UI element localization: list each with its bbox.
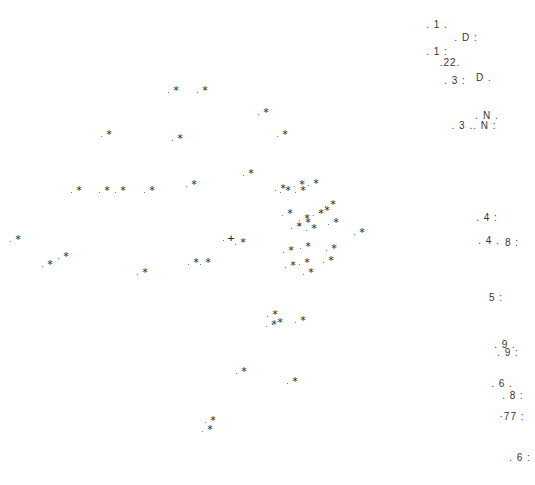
point-leader-dot — [223, 240, 224, 241]
point-leader-dot — [285, 267, 286, 268]
point-leader-dot — [58, 258, 59, 259]
point-leader-dot — [168, 92, 169, 93]
annotation-label: ·77 : — [499, 412, 524, 422]
point-leader-dot — [137, 274, 138, 275]
asterisk-marker-icon: * — [292, 376, 299, 387]
point-leader-dot — [326, 250, 327, 251]
point-leader-dot — [325, 206, 326, 207]
annotation-label: .22. — [440, 58, 461, 68]
asterisk-marker-icon: * — [300, 315, 307, 326]
point-leader-dot — [99, 192, 100, 193]
asterisk-marker-icon: * — [287, 208, 294, 219]
asterisk-marker-icon: * — [149, 185, 156, 196]
asterisk-marker-icon: * — [300, 185, 307, 196]
asterisk-marker-icon: * — [282, 129, 289, 140]
point-leader-dot — [236, 373, 237, 374]
point-leader-dot — [283, 252, 284, 253]
asterisk-marker-icon: * — [263, 107, 270, 118]
asterisk-marker-icon: * — [63, 251, 70, 262]
asterisk-marker-icon: * — [205, 257, 212, 268]
annotation-label: . 4 . — [478, 236, 500, 246]
point-leader-dot — [313, 215, 314, 216]
point-leader-dot — [172, 140, 173, 141]
point-leader-dot — [328, 224, 329, 225]
asterisk-marker-icon: * — [277, 317, 284, 328]
asterisk-marker-icon: * — [76, 185, 83, 196]
asterisk-marker-icon: * — [207, 424, 214, 435]
point-leader-dot — [354, 234, 355, 235]
asterisk-marker-icon: * — [290, 260, 297, 271]
point-leader-dot — [282, 215, 283, 216]
point-leader-dot — [235, 244, 236, 245]
annotation-label: . 4 : — [476, 213, 498, 223]
point-leader-dot — [294, 186, 295, 187]
asterisk-marker-icon: * — [47, 259, 54, 270]
point-leader-dot — [295, 322, 296, 323]
point-leader-dot — [197, 92, 198, 93]
point-leader-dot — [101, 136, 102, 137]
asterisk-marker-icon: * — [15, 234, 22, 245]
asterisk-marker-icon: * — [193, 257, 200, 268]
point-leader-dot — [299, 264, 300, 265]
point-leader-dot — [308, 185, 309, 186]
annotation-label: . 9 : — [497, 348, 519, 358]
annotation-label: 8 : — [505, 238, 519, 248]
point-leader-dot — [42, 266, 43, 267]
asterisk-marker-icon: * — [240, 237, 247, 248]
asterisk-marker-icon: * — [318, 208, 325, 219]
asterisk-marker-icon: * — [296, 221, 303, 232]
asterisk-marker-icon: * — [331, 243, 338, 254]
asterisk-marker-icon: * — [120, 185, 127, 196]
point-leader-dot — [202, 431, 203, 432]
asterisk-marker-icon: * — [288, 245, 295, 256]
asterisk-marker-icon: * — [328, 255, 335, 266]
point-leader-dot — [188, 264, 189, 265]
asterisk-marker-icon: * — [106, 129, 113, 140]
asterisk-marker-icon: * — [285, 185, 292, 196]
point-leader-dot — [200, 264, 201, 265]
asterisk-marker-icon: * — [202, 85, 209, 96]
point-leader-dot — [267, 316, 268, 317]
annotation-label: . 6 : — [509, 453, 531, 463]
asterisk-marker-icon: * — [271, 319, 278, 330]
annotation-label: . 1 : — [426, 47, 448, 57]
point-leader-dot — [277, 136, 278, 137]
asterisk-marker-icon: * — [241, 366, 248, 377]
annotation-label: . 3 : — [444, 76, 466, 86]
point-leader-dot — [258, 114, 259, 115]
asterisk-marker-icon: * — [173, 85, 180, 96]
asterisk-marker-icon: * — [191, 179, 198, 190]
annotation-label: . 6 . — [491, 379, 513, 389]
asterisk-marker-icon: * — [313, 178, 320, 189]
annotation-label: 5 : — [489, 293, 503, 303]
asterisk-marker-icon: * — [333, 217, 340, 228]
asterisk-marker-icon: * — [142, 267, 149, 278]
annotation-label: . 1 . — [426, 20, 448, 30]
scatter-plot-area: ****************************************… — [0, 0, 535, 485]
asterisk-marker-icon: * — [104, 185, 111, 196]
point-leader-dot — [295, 192, 296, 193]
point-leader-dot — [10, 241, 11, 242]
point-leader-dot — [243, 175, 244, 176]
asterisk-marker-icon: * — [359, 227, 366, 238]
point-leader-dot — [300, 248, 301, 249]
point-leader-dot — [71, 192, 72, 193]
point-leader-dot — [287, 383, 288, 384]
point-leader-dot — [280, 192, 281, 193]
asterisk-marker-icon: * — [177, 133, 184, 144]
point-leader-dot — [275, 190, 276, 191]
point-leader-dot — [266, 326, 267, 327]
annotation-label: D . — [476, 73, 492, 83]
point-leader-dot — [291, 228, 292, 229]
point-leader-dot — [303, 274, 304, 275]
asterisk-marker-icon: * — [330, 199, 337, 210]
point-leader-dot — [115, 192, 116, 193]
point-leader-dot — [144, 192, 145, 193]
point-leader-dot — [323, 262, 324, 263]
annotation-label: . 3 .. N : — [451, 121, 496, 131]
annotation-label: . D : — [454, 33, 477, 43]
asterisk-marker-icon: * — [308, 267, 315, 278]
point-leader-dot — [306, 230, 307, 231]
asterisk-marker-icon: * — [311, 223, 318, 234]
asterisk-marker-icon: * — [305, 241, 312, 252]
